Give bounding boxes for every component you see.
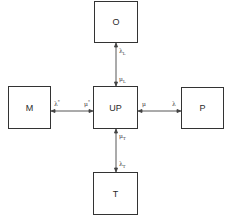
label-mu-l: μL <box>119 76 126 84</box>
arrowhead-left-icon <box>51 110 55 113</box>
label-lambda-l: λL <box>119 48 125 56</box>
arrowhead-up-icon <box>115 43 118 47</box>
label-lambda-star: λ* <box>54 100 60 107</box>
label-mu-star: μ* <box>84 100 90 107</box>
arrowhead-right-icon <box>89 110 93 113</box>
connector-arrows <box>0 0 231 216</box>
arrowhead-down-icon <box>115 168 118 172</box>
label-mu-t: μT <box>119 133 126 141</box>
arrowhead-left-icon <box>138 110 142 113</box>
arrowhead-up-icon <box>115 129 118 133</box>
label-lambda: λ <box>172 101 176 107</box>
arrowhead-down-icon <box>115 82 118 86</box>
arrowhead-right-icon <box>177 110 181 113</box>
label-mu: μ <box>142 101 146 107</box>
label-lambda-t: λT <box>119 161 125 169</box>
